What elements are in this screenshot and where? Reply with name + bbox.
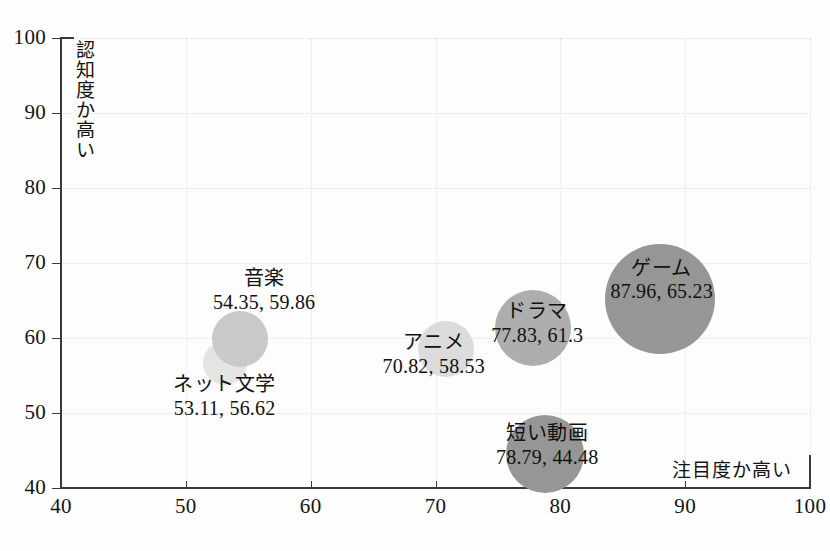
y-tick-label: 90: [2, 100, 46, 125]
x-tick-label: 60: [281, 494, 341, 519]
y-axis-title: 認知度か高い: [68, 40, 94, 160]
x-tick-label: 90: [655, 494, 715, 519]
y-axis-top-stub: [60, 37, 74, 39]
y-tick-label: 50: [2, 400, 46, 425]
bubble-point[interactable]: [212, 311, 268, 367]
y-tick-mark: [52, 488, 61, 489]
x-axis-title: 注目度か高い: [672, 455, 792, 482]
y-tick-mark: [52, 113, 61, 114]
y-tick-label: 70: [2, 250, 46, 275]
bubble-point[interactable]: [418, 321, 474, 377]
y-tick-mark: [52, 338, 61, 339]
y-tick-mark: [52, 188, 61, 189]
bubble-point[interactable]: [495, 290, 571, 366]
x-tick-mark: [685, 481, 686, 489]
y-tick-label: 60: [2, 325, 46, 350]
x-tick-label: 70: [406, 494, 466, 519]
bubble-chart: 405060708090100 405060708090100 認知度か高い 注…: [0, 0, 830, 551]
gridline-vertical: [436, 38, 437, 488]
x-tick-mark: [810, 481, 811, 489]
x-tick-label: 80: [530, 494, 590, 519]
gridline-vertical: [311, 38, 312, 488]
gridline-vertical: [186, 38, 187, 488]
x-tick-label: 40: [31, 494, 91, 519]
x-tick-mark: [311, 481, 312, 489]
x-tick-label: 100: [780, 494, 830, 519]
y-tick-mark: [52, 263, 61, 264]
y-tick-label: 80: [2, 175, 46, 200]
x-tick-mark: [61, 481, 62, 489]
x-tick-mark: [436, 481, 437, 489]
y-tick-mark: [52, 38, 61, 39]
x-tick-label: 50: [156, 494, 216, 519]
bubble-point[interactable]: [605, 244, 715, 354]
gridline-vertical: [810, 38, 811, 488]
y-tick-mark: [52, 413, 61, 414]
x-tick-mark: [186, 481, 187, 489]
y-tick-label: 100: [2, 25, 46, 50]
